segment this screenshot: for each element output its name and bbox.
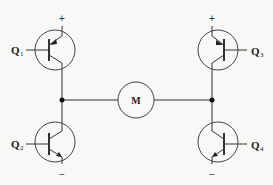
right-junction-node	[210, 98, 215, 103]
h-bridge-diagram: + Q 1 + Q 3 − Q 2	[0, 0, 273, 185]
q1-label: Q	[11, 44, 20, 56]
emitter-arrow-icon	[56, 152, 62, 157]
plus-sign: +	[59, 13, 65, 24]
transistor-q4: − Q 4	[198, 100, 264, 180]
minus-sign: −	[209, 169, 215, 180]
plus-sign: +	[209, 13, 215, 24]
minus-sign: −	[59, 169, 65, 180]
motor-label: M	[131, 95, 141, 106]
transistor-q1: + Q 1	[11, 13, 75, 100]
svg-text:1: 1	[20, 50, 24, 58]
left-junction-node	[60, 98, 65, 103]
transistor-q3: + Q 3	[198, 13, 264, 100]
svg-text:3: 3	[260, 51, 264, 59]
q2-label: Q	[11, 138, 20, 150]
emitter-arrow-icon	[212, 152, 218, 157]
emitter-arrow-icon	[216, 40, 223, 45]
emitter-arrow-icon	[50, 39, 57, 45]
circuit-canvas: + Q 1 + Q 3 − Q 2	[0, 0, 273, 185]
q3-label: Q	[251, 45, 260, 57]
q4-label: Q	[251, 139, 260, 151]
motor: M	[62, 82, 212, 118]
svg-text:4: 4	[260, 145, 264, 153]
svg-text:2: 2	[20, 144, 24, 152]
transistor-q2: − Q 2	[11, 100, 75, 180]
